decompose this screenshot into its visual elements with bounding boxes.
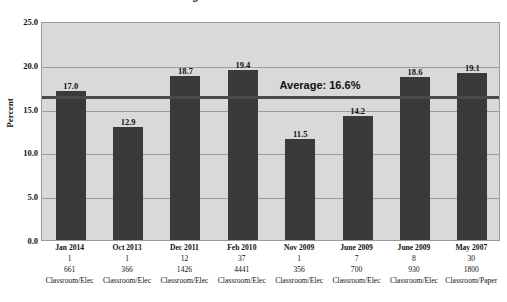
x-axis-group: June 20098930Classroom/Elec <box>385 242 442 286</box>
bar-value-label: 19.4 <box>235 60 250 70</box>
bar[interactable] <box>400 77 430 240</box>
x-tick-study-count: 12 <box>156 253 213 264</box>
x-tick-setting: Classroom/Elec <box>271 275 328 286</box>
x-tick-date: June 2009 <box>385 242 442 253</box>
x-axis-labels: Jan 20141661Classroom/ElecOct 20131366Cl… <box>41 242 500 302</box>
bar-slot: 19.1 <box>444 23 501 240</box>
x-tick-setting: Classroom/Elec <box>328 275 385 286</box>
bar[interactable] <box>170 76 200 240</box>
bar-value-label: 17.0 <box>63 81 78 91</box>
x-tick-setting: Classroom/Elec <box>213 275 270 286</box>
x-axis-group: Feb 2010374441Classroom/Elec <box>213 242 270 286</box>
x-axis-group: Dec 2011121426Classroom/Elec <box>156 242 213 286</box>
x-tick-setting: Classroom/Paper <box>443 275 500 286</box>
x-tick-date: June 2009 <box>328 242 385 253</box>
x-tick-study-count: 1 <box>41 253 98 264</box>
y-axis-tick-labels: 0.05.010.015.020.025.0 <box>0 0 38 302</box>
x-tick-study-count: 1 <box>271 253 328 264</box>
bar-slot: 18.7 <box>157 23 214 240</box>
x-tick-setting: Classroom/Elec <box>156 275 213 286</box>
x-axis-group: June 20097700Classroom/Elec <box>328 242 385 286</box>
plot-area: 17.012.918.719.411.514.218.619.1 Average… <box>41 22 500 241</box>
bar-slot: 12.9 <box>99 23 156 240</box>
average-line <box>42 96 499 99</box>
x-tick-study-count: 30 <box>443 253 500 264</box>
bar-slot: 18.6 <box>386 23 443 240</box>
bar-value-label: 19.1 <box>465 63 480 73</box>
y-tick-label: 10.0 <box>4 148 38 158</box>
x-tick-study-count: 7 <box>328 253 385 264</box>
bars-layer: 17.012.918.719.411.514.218.619.1 <box>42 23 499 240</box>
x-tick-date: Oct 2013 <box>98 242 155 253</box>
x-axis-group: Oct 20131366Classroom/Elec <box>98 242 155 286</box>
x-axis-group: Jan 20141661Classroom/Elec <box>41 242 98 286</box>
bar-value-label: 12.9 <box>121 117 136 127</box>
x-tick-sample-size: 356 <box>271 264 328 275</box>
x-tick-date: Dec 2011 <box>156 242 213 253</box>
bar[interactable] <box>56 91 86 240</box>
x-tick-setting: Classroom/Elec <box>98 275 155 286</box>
x-tick-sample-size: 4441 <box>213 264 270 275</box>
bar-slot: 19.4 <box>214 23 271 240</box>
x-tick-date: May 2007 <box>443 242 500 253</box>
x-tick-sample-size: 366 <box>98 264 155 275</box>
x-tick-sample-size: 1800 <box>443 264 500 275</box>
x-tick-date: Nov 2009 <box>271 242 328 253</box>
x-tick-sample-size: 930 <box>385 264 442 275</box>
y-tick-label: 15.0 <box>4 105 38 115</box>
bar-slot: 14.2 <box>329 23 386 240</box>
chart-title: Eight Different Studies 2007-2014 <box>0 0 507 3</box>
bar-value-label: 18.7 <box>178 66 193 76</box>
y-tick-label: 5.0 <box>4 192 38 202</box>
x-tick-date: Feb 2010 <box>213 242 270 253</box>
x-tick-study-count: 37 <box>213 253 270 264</box>
x-tick-study-count: 1 <box>98 253 155 264</box>
bar-value-label: 14.2 <box>350 106 365 116</box>
bar[interactable] <box>113 127 143 240</box>
y-tick-label: 25.0 <box>4 17 38 27</box>
x-tick-sample-size: 700 <box>328 264 385 275</box>
x-tick-setting: Classroom/Elec <box>385 275 442 286</box>
y-tick-label: 0.0 <box>4 236 38 246</box>
x-tick-setting: Classroom/Elec <box>41 275 98 286</box>
x-tick-study-count: 8 <box>385 253 442 264</box>
x-tick-date: Jan 2014 <box>41 242 98 253</box>
x-tick-sample-size: 661 <box>41 264 98 275</box>
bar-value-label: 18.6 <box>408 67 423 77</box>
x-axis-group: May 2007301800Classroom/Paper <box>443 242 500 286</box>
bar[interactable] <box>343 116 373 240</box>
x-tick-sample-size: 1426 <box>156 264 213 275</box>
y-tick-label: 20.0 <box>4 61 38 71</box>
average-label: Average: 16.6% <box>280 79 361 91</box>
bar-slot: 17.0 <box>42 23 99 240</box>
bar[interactable] <box>285 139 315 240</box>
bar-slot: 11.5 <box>272 23 329 240</box>
bar-value-label: 11.5 <box>293 129 307 139</box>
x-axis-group: Nov 20091356Classroom/Elec <box>271 242 328 286</box>
chart-title-line-2: Eight Different Studies 2007-2014 <box>0 0 507 3</box>
